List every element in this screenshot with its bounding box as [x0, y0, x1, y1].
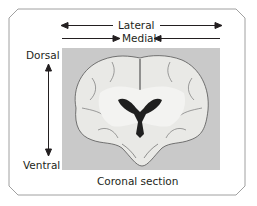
coronal-brain-image — [62, 48, 220, 170]
dorsal-label: Dorsal — [26, 50, 60, 61]
diagram-title: Coronal section — [97, 176, 178, 187]
medial-label: Medial — [122, 33, 156, 44]
lateral-label: Lateral — [118, 20, 155, 31]
ventral-label: Ventral — [23, 160, 60, 171]
